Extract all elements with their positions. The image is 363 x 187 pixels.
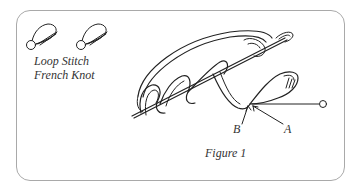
legend-loop-stitch: Loop Stitch: [34, 54, 89, 69]
loop-stitch-icon: [27, 24, 58, 50]
ribbon-wraps: [140, 38, 265, 115]
pointer-a: [253, 106, 283, 124]
ribbon-loop: [250, 72, 298, 104]
french-knot-icon: [77, 24, 108, 50]
point-label-b: B: [233, 122, 240, 137]
illustration: [0, 0, 363, 187]
figure-caption: Figure 1: [205, 146, 246, 161]
point-label-a: A: [284, 122, 291, 137]
thread-end: [252, 101, 327, 108]
arrow-b-icon: [246, 106, 251, 111]
legend-french-knot: French Knot: [34, 68, 95, 83]
